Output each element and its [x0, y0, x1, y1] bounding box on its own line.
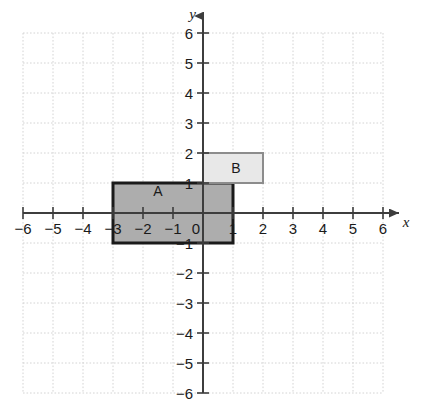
x-tick-label: 4: [319, 220, 327, 237]
x-axis-label: x: [402, 214, 410, 230]
shape-b-label: B: [231, 160, 240, 176]
x-tick-label: 5: [349, 220, 357, 237]
y-tick-label: 3: [185, 115, 193, 132]
cartesian-grid-chart: −6 −5 −4 −3 −2 −1 0 1 2 3 4 5 6 6 5 4 3 …: [0, 0, 422, 407]
y-tick-label: −5: [176, 355, 193, 372]
x-tick-label-origin: 0: [192, 220, 200, 237]
y-tick-label: −1: [176, 235, 193, 252]
y-tick-label: 6: [185, 25, 193, 42]
x-tick-label: 1: [229, 220, 237, 237]
x-tick-label: −4: [74, 220, 91, 237]
y-tick-label: 1: [185, 175, 193, 192]
y-tick-label: 4: [185, 85, 193, 102]
x-tick-label: 6: [379, 220, 387, 237]
shape-a-label: A: [153, 183, 163, 199]
y-tick-label: 2: [185, 145, 193, 162]
y-tick-label: −6: [176, 385, 193, 402]
x-tick-label: −6: [14, 220, 31, 237]
x-tick-label: −5: [44, 220, 61, 237]
y-tick-label: −2: [176, 265, 193, 282]
x-tick-label: −3: [104, 220, 121, 237]
y-tick-label: −4: [176, 325, 193, 342]
y-tick-label: −3: [176, 295, 193, 312]
x-tick-label: −2: [134, 220, 151, 237]
y-tick-label: 5: [185, 55, 193, 72]
x-tick-label: 3: [289, 220, 297, 237]
coordinate-plane-figure: −6 −5 −4 −3 −2 −1 0 1 2 3 4 5 6 6 5 4 3 …: [0, 0, 422, 407]
x-tick-label: 2: [259, 220, 267, 237]
y-axis-label: y: [187, 6, 196, 22]
